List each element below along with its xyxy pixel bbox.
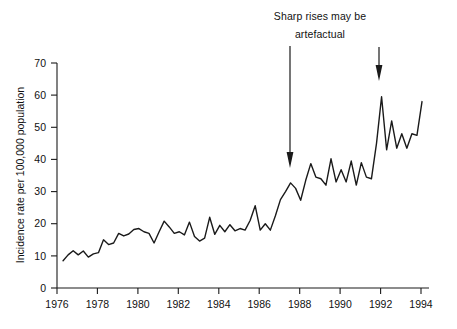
x-tick-label: 1986 [248, 298, 272, 310]
annotation-text-line-1: Sharp rises may be [245, 10, 395, 22]
x-tick-label: 1990 [328, 298, 352, 310]
chart-figure: 0 10 20 30 40 50 60 70 Incidence rate pe… [0, 0, 457, 329]
incidence-rate-line [63, 97, 422, 261]
x-tick-label: 1980 [126, 298, 150, 310]
x-tick-label: 1984 [207, 298, 231, 310]
x-tick-label: 1994 [409, 298, 433, 310]
y-tick-label: 60 [34, 89, 46, 101]
x-axis: 1976 1978 1980 1982 1984 1986 1988 1990 … [45, 288, 433, 310]
data-series-group [63, 97, 422, 261]
x-tick-label: 1976 [45, 298, 69, 310]
y-tick-label: 70 [34, 57, 46, 69]
annotation-text-line-2: artefactual [245, 28, 395, 40]
y-tick-label: 20 [34, 217, 46, 229]
y-tick-label: 30 [34, 185, 46, 197]
y-tick-label: 0 [40, 282, 46, 294]
arrow-right-icon [376, 47, 383, 81]
incidence-rate-line-chart: 0 10 20 30 40 50 60 70 Incidence rate pe… [0, 0, 457, 329]
arrow-left-icon [287, 46, 294, 168]
y-tick-label: 40 [34, 153, 46, 165]
x-tick-label: 1992 [369, 298, 393, 310]
x-tick-label: 1988 [288, 298, 312, 310]
x-tick-label: 1978 [86, 298, 110, 310]
y-axis-title: Incidence rate per 100,000 population [14, 87, 26, 263]
x-tick-label: 1982 [167, 298, 191, 310]
y-tick-label: 50 [34, 121, 46, 133]
y-tick-label: 10 [34, 250, 46, 262]
y-axis: 0 10 20 30 40 50 60 70 Incidence rate pe… [14, 57, 57, 294]
annotation-arrows [287, 46, 383, 168]
